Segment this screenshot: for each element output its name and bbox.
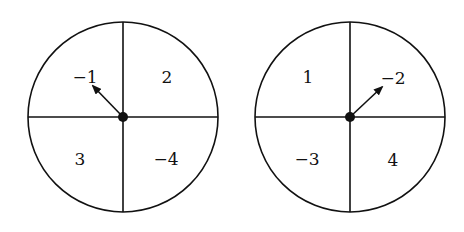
spinner-left-label-top-left: −1 — [72, 67, 97, 87]
spinner-left-arrow-icon — [93, 86, 123, 117]
spinner-right-label-top-left: 1 — [303, 67, 314, 87]
spinner-left: −1 2 3 −4 — [28, 22, 218, 212]
spinners-diagram: −1 2 3 −4 1 −2 −3 4 — [0, 0, 464, 232]
spinner-right: 1 −2 −3 4 — [255, 22, 445, 212]
spinner-right-label-bottom-right: 4 — [388, 150, 399, 170]
spinner-right-label-bottom-left: −3 — [294, 149, 319, 169]
spinner-left-label-bottom-left: 3 — [75, 149, 86, 169]
spinner-right-arrow-icon — [350, 87, 382, 117]
spinner-left-pivot — [118, 112, 128, 122]
spinner-right-label-top-right: −2 — [380, 68, 405, 88]
spinner-left-label-top-right: 2 — [162, 67, 173, 87]
spinner-right-pivot — [345, 112, 355, 122]
spinner-left-label-bottom-right: −4 — [153, 149, 178, 169]
